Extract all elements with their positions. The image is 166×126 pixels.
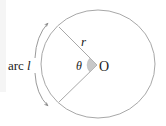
arc-arrow-lower (35, 73, 48, 106)
circle-sector-diagram: arcl r θ O (0, 0, 166, 126)
arc-label: arcl (8, 58, 31, 73)
center-label: O (99, 59, 109, 74)
circle-outline (41, 10, 155, 118)
angle-label: θ (76, 59, 82, 73)
radius-label: r (81, 34, 87, 49)
angle-wedge (87, 58, 97, 72)
